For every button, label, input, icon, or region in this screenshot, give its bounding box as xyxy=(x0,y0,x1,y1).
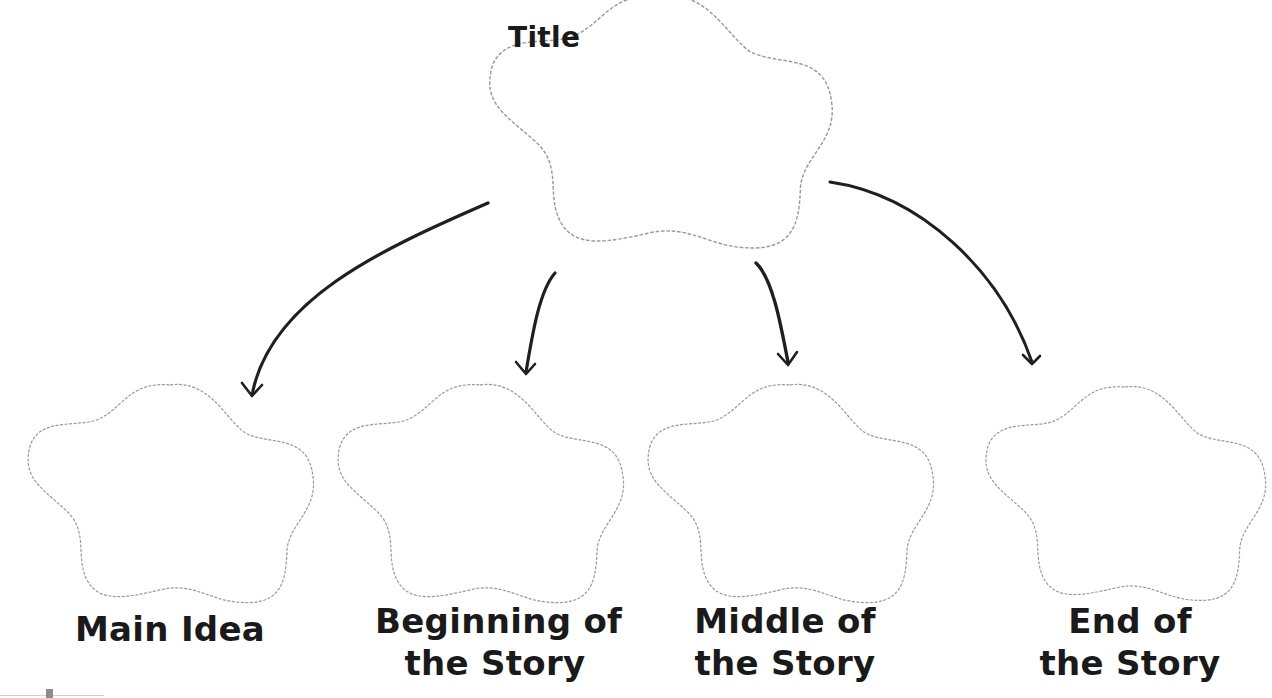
main-idea-shape xyxy=(28,384,313,602)
arrow-to-main-idea xyxy=(242,203,488,396)
arrow-to-middle xyxy=(756,263,797,365)
corner-mark-decoration xyxy=(46,689,53,698)
arrow-to-beginning xyxy=(516,273,555,374)
end-line1: End of xyxy=(1030,600,1230,642)
main-idea-label: Main Idea xyxy=(70,608,270,650)
middle-line2: the Story xyxy=(680,642,890,684)
end-shape xyxy=(986,387,1266,601)
arrow-to-end xyxy=(830,182,1040,364)
story-map-diagram xyxy=(0,0,1272,698)
title-label: Title xyxy=(508,22,580,54)
beginning-label: Beginning of the Story xyxy=(375,600,615,684)
end-line2: the Story xyxy=(1030,642,1230,684)
beginning-shape xyxy=(338,384,623,602)
end-label: End of the Story xyxy=(1030,600,1230,684)
middle-line1: Middle of xyxy=(680,600,890,642)
middle-shape xyxy=(648,384,933,602)
main-idea-line1: Main Idea xyxy=(70,608,270,650)
beginning-line2: the Story xyxy=(375,642,615,684)
middle-label: Middle of the Story xyxy=(680,600,890,684)
beginning-line1: Beginning of xyxy=(375,600,615,642)
title-label-text: Title xyxy=(508,22,580,54)
